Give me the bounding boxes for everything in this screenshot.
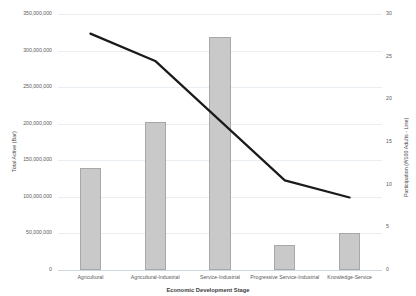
left-axis-tick-label: 200,000,000	[4, 121, 52, 126]
right-axis-tick-label: 30	[386, 11, 408, 16]
left-axis-tick-label: 0	[4, 267, 52, 272]
left-axis-tick-label: 100,000,000	[4, 194, 52, 199]
right-axis-tick-label: 10	[386, 182, 408, 187]
x-axis-title: Economic Development Stage	[0, 288, 416, 294]
bar	[145, 122, 166, 270]
x-axis-category-label: Knowledge-Service	[295, 275, 405, 280]
left-axis-tick-label: 300,000,000	[4, 48, 52, 53]
left-axis-tick-label: 50,000,000	[4, 230, 52, 235]
left-axis-tick-label: 150,000,000	[4, 157, 52, 162]
gridline	[58, 14, 382, 15]
right-axis-tick-label: 5	[386, 224, 408, 229]
left-axis-tick-label: 350,000,000	[4, 11, 52, 16]
plot-area	[58, 14, 382, 270]
left-axis-title: Total Active (Bar)	[12, 131, 17, 172]
right-axis-tick-label: 0	[386, 267, 408, 272]
chart-root: Total Active (Bar) Participation (#/100 …	[0, 0, 416, 296]
bar	[209, 37, 230, 270]
right-axis-tick-label: 25	[386, 54, 408, 59]
bar	[339, 233, 360, 270]
right-axis-tick-label: 15	[386, 139, 408, 144]
gridline	[58, 270, 382, 271]
left-axis-tick-label: 250,000,000	[4, 84, 52, 89]
bar	[274, 245, 295, 270]
right-axis-tick-label: 20	[386, 96, 408, 101]
bar	[80, 168, 101, 270]
